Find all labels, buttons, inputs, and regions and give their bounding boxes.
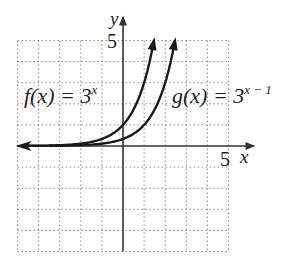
f-exponent: x — [91, 82, 97, 97]
f-function-label: f(x) = 3x — [24, 82, 97, 109]
x-axis-label: x — [240, 146, 248, 168]
g-exponent: x − 1 — [244, 82, 272, 97]
g-main-text: g(x) = 3 — [172, 83, 244, 108]
curve-g-arrow-icon — [169, 37, 178, 51]
exponential-graph — [0, 0, 299, 261]
g-function-label: g(x) = 3x − 1 — [172, 82, 272, 109]
f-main-text: f(x) = 3 — [24, 83, 91, 108]
x-tick-5: 5 — [220, 148, 230, 171]
y-tick-5: 5 — [107, 30, 117, 53]
axes — [18, 16, 256, 252]
curve-f-arrow-icon — [148, 37, 157, 51]
y-axis-label: y — [110, 8, 118, 30]
y-axis-arrow-icon — [119, 16, 127, 26]
